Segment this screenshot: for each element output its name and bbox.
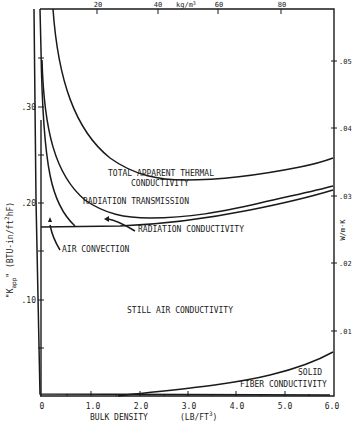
- svg-text:BULK DENSITY: BULK DENSITY: [90, 413, 148, 422]
- y2-tick-3: .04: [339, 125, 352, 133]
- x-tick-3: 3.0: [182, 402, 197, 411]
- x2-tick-1: 40: [154, 1, 162, 9]
- label-total-line1: TOTAL APPARENT THERMAL: [108, 169, 214, 178]
- svg-text:W/m·K: W/m·K: [339, 219, 347, 241]
- label-still-air: STILL AIR CONDUCTIVITY: [127, 306, 233, 315]
- label-radiation-transmission: RADIATION TRANSMISSION: [83, 197, 189, 206]
- y2-tick-2: .03: [339, 193, 352, 201]
- x2-tick-3: 80: [278, 1, 286, 9]
- label-solid-line2: FIBER CONDUCTIVITY: [240, 380, 327, 389]
- svg-text:(LB/FT3): (LB/FT3): [180, 410, 217, 422]
- air-convection-arrow: [48, 217, 60, 250]
- top-axis-ticks: [97, 9, 281, 14]
- label-solid-line1: SOLID: [298, 368, 322, 377]
- label-air-convection: AIR CONVECTION: [62, 245, 130, 254]
- y-tick-2: .30: [22, 103, 37, 112]
- x-tick-6: 6.0: [325, 402, 340, 411]
- label-radiation-conductivity: RADIATION CONDUCTIVITY: [138, 225, 244, 234]
- left-axis-tick-labels: .10 .20 .30: [22, 103, 37, 305]
- radiation-conductivity-arrow: [104, 216, 135, 231]
- y2-tick-0: .01: [339, 328, 352, 336]
- radiation-conductivity-curve: [41, 190, 333, 227]
- bottom-axis-tick-labels: 0 1.0 2.0 3.0 4.0 5.0 6.0: [40, 402, 340, 411]
- right-axis-tick-labels: .01 .02 .03 .04 .05: [339, 58, 352, 336]
- x-tick-5: 5.0: [278, 402, 293, 411]
- y-tick-0: .10: [22, 296, 37, 305]
- x-tick-2: 2.0: [134, 402, 149, 411]
- y-axis-title: "Kapp" (BTU-in/ft2hF): [3, 202, 18, 298]
- top-axis-tick-labels: 20 40 60 80 kg/m3: [94, 0, 286, 9]
- radiation-transmission-curve: [42, 60, 333, 218]
- air-convection-curve: [40, 9, 75, 226]
- x2-tick-2: 60: [215, 1, 223, 9]
- x2-tick-0: 20: [94, 1, 102, 9]
- thermal-conductivity-chart: 0 1.0 2.0 3.0 4.0 5.0 6.0 BULK DENSITY (…: [0, 0, 355, 423]
- x-tick-1: 1.0: [86, 402, 101, 411]
- x2-axis-title: kg/m3: [176, 0, 196, 9]
- x-axis-title: BULK DENSITY (LB/FT3): [90, 410, 217, 422]
- x-tick-0: 0: [40, 402, 45, 411]
- y-tick-1: .20: [22, 199, 37, 208]
- y2-tick-4: .05: [339, 58, 352, 66]
- x-tick-4: 4.0: [230, 402, 245, 411]
- svg-text:"Kapp" (BTU-in/ft2hF): "Kapp" (BTU-in/ft2hF): [3, 202, 18, 298]
- y2-tick-1: .02: [339, 260, 352, 268]
- label-total-line2: CONDUCTIVITY: [131, 179, 189, 188]
- total-apparent-curve: [53, 9, 333, 180]
- y2-axis-title: W/m·K: [339, 219, 347, 241]
